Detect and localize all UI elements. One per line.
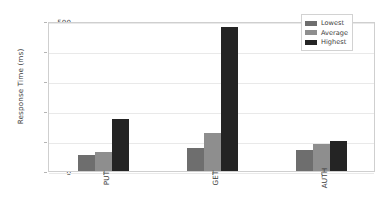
legend: LowestAverageHighest xyxy=(301,14,353,51)
bar xyxy=(187,148,204,171)
y-tick-mark xyxy=(44,112,47,113)
y-tick-mark xyxy=(44,142,47,143)
bar xyxy=(296,150,313,171)
bar xyxy=(204,133,221,171)
bar xyxy=(330,141,347,171)
x-tick-label-text: GET xyxy=(211,171,220,186)
y-tick-mark xyxy=(44,82,47,83)
bar xyxy=(78,155,95,172)
legend-label: Highest xyxy=(321,38,346,46)
x-tick-label: AUTH xyxy=(301,178,341,187)
legend-swatch xyxy=(305,21,317,26)
x-tick-label: GET xyxy=(192,178,232,187)
x-tick-label-text: PUT xyxy=(103,171,112,185)
legend-label: Lowest xyxy=(321,19,344,27)
legend-swatch xyxy=(305,30,317,35)
legend-item[interactable]: Highest xyxy=(305,38,348,47)
bar-group xyxy=(158,23,267,171)
legend-swatch xyxy=(305,40,317,45)
bar xyxy=(221,27,238,171)
legend-item[interactable]: Average xyxy=(305,28,348,37)
bar-group xyxy=(49,23,158,171)
y-axis-label: Response Time (ms) xyxy=(12,0,30,172)
x-tick-label-text: AUTH xyxy=(320,168,329,189)
y-tick-mark xyxy=(44,172,47,173)
chart-figure: Response Time (ms) 0100200300400500 PUTG… xyxy=(0,0,384,212)
legend-item[interactable]: Lowest xyxy=(305,19,348,28)
x-tick-label: PUT xyxy=(83,178,123,187)
y-axis-label-text: Response Time (ms) xyxy=(17,48,26,124)
y-tick-mark xyxy=(44,52,47,53)
bar xyxy=(95,152,112,171)
legend-label: Average xyxy=(321,29,348,37)
y-tick-mark xyxy=(44,22,47,23)
bar xyxy=(112,119,129,172)
